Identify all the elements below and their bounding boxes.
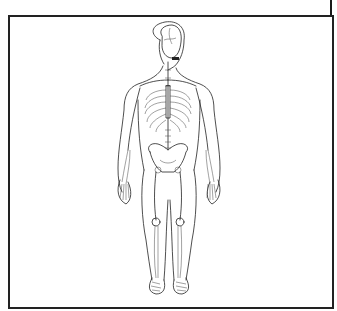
skeleton-figure-icon [0, 0, 337, 311]
body-outline [118, 22, 220, 294]
foot-bones [151, 282, 187, 291]
leg-bones [152, 172, 184, 278]
skull [161, 25, 182, 60]
hand-bones [120, 184, 216, 200]
jaw-mark [172, 57, 179, 60]
